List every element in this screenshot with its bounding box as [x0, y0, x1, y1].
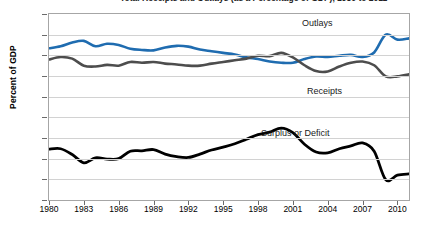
y-tick-mark	[42, 200, 47, 201]
y-tick-mark	[42, 117, 47, 118]
x-tick-mark	[84, 201, 85, 205]
x-tick-label: 2010	[377, 204, 417, 214]
gridline	[49, 117, 409, 118]
gridline	[49, 179, 409, 180]
x-tick-mark	[293, 201, 294, 205]
gridline	[49, 159, 409, 160]
y-tick-mark	[42, 179, 47, 180]
x-tick-mark	[223, 201, 224, 205]
x-tick-mark	[119, 201, 120, 205]
annotation-receipts: Receipts	[307, 86, 342, 96]
gridline	[49, 76, 409, 77]
series-layer	[49, 14, 409, 200]
chart-figure: Total Receipts and Outlays (as a Percent…	[0, 0, 422, 234]
y-tick-mark	[42, 55, 47, 56]
y-tick-mark	[42, 76, 47, 77]
gridline	[49, 138, 409, 139]
y-tick-mark	[42, 14, 47, 15]
y-tick-mark	[42, 97, 47, 98]
y-tick-mark	[42, 159, 47, 160]
gridline	[49, 97, 409, 98]
series-line-deficit	[49, 128, 409, 181]
x-tick-mark	[49, 201, 50, 205]
y-axis-label: Percent of GDP	[8, 41, 18, 113]
annotation-outlays: Outlays	[302, 18, 333, 28]
annotation-deficit: Surplus or Deficit	[261, 128, 330, 138]
x-tick-mark	[328, 201, 329, 205]
chart-title-clipped: Total Receipts and Outlays (as a Percent…	[0, 0, 422, 7]
chart-title-text: Total Receipts and Outlays (as a Percent…	[120, 0, 387, 3]
x-tick-mark	[188, 201, 189, 205]
gridline	[49, 35, 409, 36]
y-tick-mark	[42, 138, 47, 139]
gridline	[49, 55, 409, 56]
x-tick-mark	[363, 201, 364, 205]
series-line-outlays	[49, 34, 409, 63]
x-tick-mark	[397, 201, 398, 205]
x-tick-mark	[258, 201, 259, 205]
x-tick-mark	[154, 201, 155, 205]
y-tick-mark	[42, 35, 47, 36]
plot-area: Outlays Receipts Surplus or Deficit	[48, 13, 410, 201]
